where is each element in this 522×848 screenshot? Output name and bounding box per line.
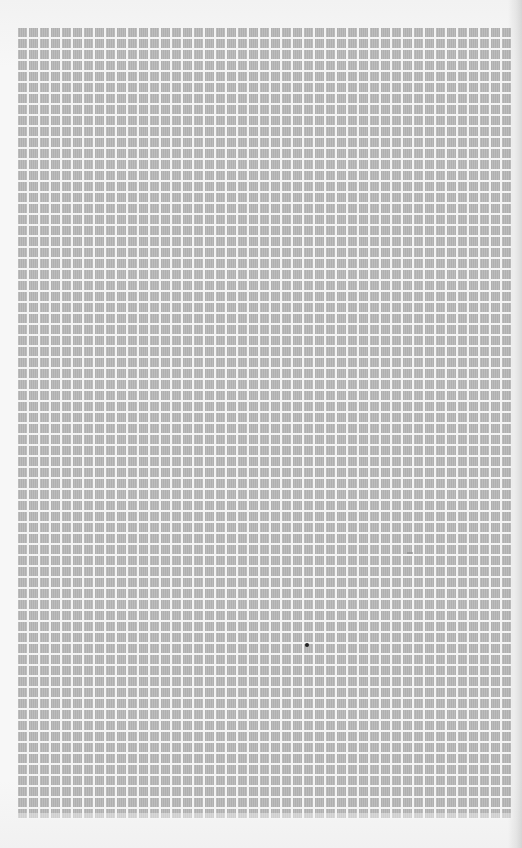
graph-paper-page — [0, 0, 522, 848]
graph-paper-grid — [18, 28, 513, 820]
ink-dot — [305, 643, 309, 647]
grid-bottom-fade — [18, 813, 513, 819]
faint-mark — [407, 552, 413, 554]
